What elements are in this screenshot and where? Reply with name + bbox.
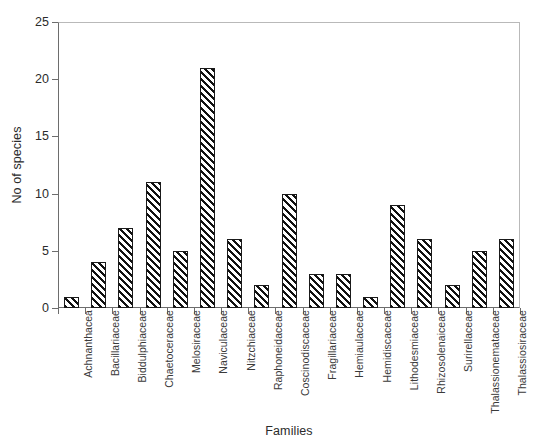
bar-series bbox=[58, 22, 520, 308]
x-axis-tick-label: Achnanthacea bbox=[80, 310, 96, 414]
x-axis-tick-label: Fragillariaceae bbox=[324, 310, 340, 414]
bar bbox=[173, 251, 188, 308]
x-axis-tick-labels: AchnanthaceaBacillariaceaeBiddulphiaceae… bbox=[58, 314, 520, 418]
bar bbox=[390, 205, 405, 308]
x-axis-tick-label: Hemidiscaceae bbox=[379, 310, 395, 414]
y-axis-tick-label: 5 bbox=[3, 245, 49, 258]
x-axis-tick-label: Lithodesmiaceae bbox=[406, 310, 422, 414]
bar bbox=[336, 274, 351, 308]
bar bbox=[472, 251, 487, 308]
bar bbox=[91, 262, 106, 308]
x-axis-tick-label: Chaetoceraceae bbox=[161, 310, 177, 414]
y-axis-tick-label: 20 bbox=[3, 73, 49, 86]
y-axis-tick-label: 0 bbox=[3, 302, 49, 315]
bar bbox=[146, 182, 161, 308]
x-axis-title: Families bbox=[58, 424, 520, 438]
bar bbox=[227, 239, 242, 308]
x-axis-tick-label: Thalassiosiraceae bbox=[514, 310, 530, 414]
bar bbox=[309, 274, 324, 308]
bar bbox=[282, 194, 297, 308]
y-axis-tick-label: 25 bbox=[3, 16, 49, 29]
bar bbox=[64, 297, 79, 308]
bar bbox=[118, 228, 133, 308]
bar bbox=[417, 239, 432, 308]
y-axis-tick-label: 15 bbox=[3, 130, 49, 143]
x-axis-tick-label: Biddulphiaceae bbox=[134, 310, 150, 414]
x-axis-tick-label: Melosiraceae bbox=[188, 310, 204, 414]
x-axis-tick-label: Thalassionemataceae bbox=[487, 310, 503, 414]
bar bbox=[200, 68, 215, 308]
x-axis-tick-label: Surirellaceae bbox=[460, 310, 476, 414]
bar bbox=[254, 285, 269, 308]
bar bbox=[363, 297, 378, 308]
x-axis-tick-label: Hemiaulaceae bbox=[351, 310, 367, 414]
x-axis-tick-label: Raphoneidaceae bbox=[270, 310, 286, 414]
bar bbox=[499, 239, 514, 308]
x-axis-tick-label: Bacillariaceae bbox=[107, 310, 123, 414]
bar-chart: No of species 0510152025 AchnanthaceaBac… bbox=[0, 0, 536, 448]
x-axis-tick-label: Naviculaceae bbox=[215, 310, 231, 414]
x-axis-tick-label: Coscinodiscaceae bbox=[297, 310, 313, 414]
y-axis-tick-label: 10 bbox=[3, 187, 49, 200]
y-axis-title: No of species bbox=[6, 22, 28, 308]
x-axis-tick-label: Rhizosolenaiceae bbox=[433, 310, 449, 414]
bar bbox=[445, 285, 460, 308]
x-axis-tick-label: Nitzchiaceae bbox=[243, 310, 259, 414]
